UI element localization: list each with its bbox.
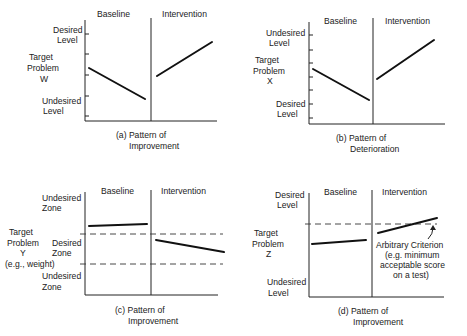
y-axis-label-line2: Problem xyxy=(27,63,59,73)
baseline-trend-line xyxy=(89,68,145,99)
y-axis-label-line2: Problem xyxy=(7,238,39,248)
annotation-line4: on a test) xyxy=(393,270,429,280)
annotation-line3: acceptable score xyxy=(380,260,445,270)
y-axis-label-line4: (e.g., weight) xyxy=(5,259,55,269)
intervention-trend-line xyxy=(378,218,437,233)
y-top-label-line1: Desired xyxy=(53,25,83,35)
panel-c: Baseline Intervention Undesired Zone Tar… xyxy=(5,186,224,326)
baseline-trend-line xyxy=(89,224,147,226)
y-axis-label-line1: Target xyxy=(255,55,279,65)
phase-label-baseline: Baseline xyxy=(97,9,130,19)
zone-bottom-line1: Undesired xyxy=(42,271,81,281)
y-bottom-label-line1: Desired xyxy=(276,99,306,109)
intervention-trend-line xyxy=(156,240,224,252)
y-top-label-line1: Undesired xyxy=(266,28,305,38)
caption-line1: (c) Pattern of xyxy=(115,305,165,315)
panel-a: Baseline Intervention Desired Level Targ… xyxy=(27,9,217,151)
baseline-trend-line xyxy=(313,69,369,100)
y-bottom-label-line2: Level xyxy=(268,288,289,298)
y-top-label-line2: Level xyxy=(269,38,290,48)
arrowhead-icon xyxy=(430,225,436,230)
y-bottom-label-line2: Level xyxy=(43,106,64,116)
phase-label-intervention: Intervention xyxy=(161,186,206,196)
caption-line2: Improvement xyxy=(353,317,404,327)
y-axis-label-line3: X xyxy=(267,76,273,86)
zone-middle-line1: Desired xyxy=(52,238,82,248)
annotation-line2: (e.g. minimum xyxy=(385,250,439,260)
baseline-trend-line xyxy=(312,240,366,244)
panel-d: Baseline Intervention Desired Level Targ… xyxy=(252,187,445,327)
y-axis-label-line3: Y xyxy=(20,248,26,258)
caption-line2: Improvement xyxy=(128,316,179,326)
y-top-label-line2: Level xyxy=(277,200,298,210)
intervention-trend-line xyxy=(157,42,212,76)
caption-line1: (b) Pattern of xyxy=(336,133,387,143)
caption-line1: (a) Pattern of xyxy=(116,130,167,140)
y-axis-label-line2: Problem xyxy=(252,239,284,249)
y-axis-label-line3: Z xyxy=(266,249,271,259)
caption-line2: Improvement xyxy=(129,141,180,151)
y-axis-label-line3: W xyxy=(40,74,49,84)
zone-bottom-line2: Zone xyxy=(42,282,62,292)
zone-top-line1: Undesired xyxy=(42,193,81,203)
zone-middle-line2: Zone xyxy=(52,248,72,258)
y-axis-label-line1: Target xyxy=(29,52,53,62)
y-bottom-label-line2: Level xyxy=(277,109,298,119)
annotation-line1: Arbitrary Criterion xyxy=(376,240,444,250)
four-panel-diagram: Baseline Intervention Desired Level Targ… xyxy=(0,0,467,336)
y-bottom-label-line1: Undesired xyxy=(267,277,306,287)
intervention-trend-line xyxy=(377,40,434,79)
phase-label-baseline: Baseline xyxy=(324,16,357,26)
phase-label-intervention: Intervention xyxy=(382,187,427,197)
zone-top-line2: Zone xyxy=(42,203,62,213)
y-axis-label-line1: Target xyxy=(254,228,278,238)
phase-label-intervention: Intervention xyxy=(162,9,207,19)
caption-line1: (d) Pattern of xyxy=(338,306,389,316)
y-axis-label-line2: Problem xyxy=(253,66,285,76)
phase-label-baseline: Baseline xyxy=(324,187,357,197)
y-top-label-line1: Desired xyxy=(275,190,305,200)
panel-b: Baseline Intervention Undesired Level Ta… xyxy=(253,16,445,154)
phase-label-baseline: Baseline xyxy=(101,186,134,196)
y-top-label-line2: Level xyxy=(57,35,78,45)
y-axis-label-line1: Target xyxy=(9,227,33,237)
y-bottom-label-line1: Undesired xyxy=(42,96,81,106)
phase-label-intervention: Intervention xyxy=(385,16,430,26)
caption-line2: Deterioration xyxy=(350,144,399,154)
